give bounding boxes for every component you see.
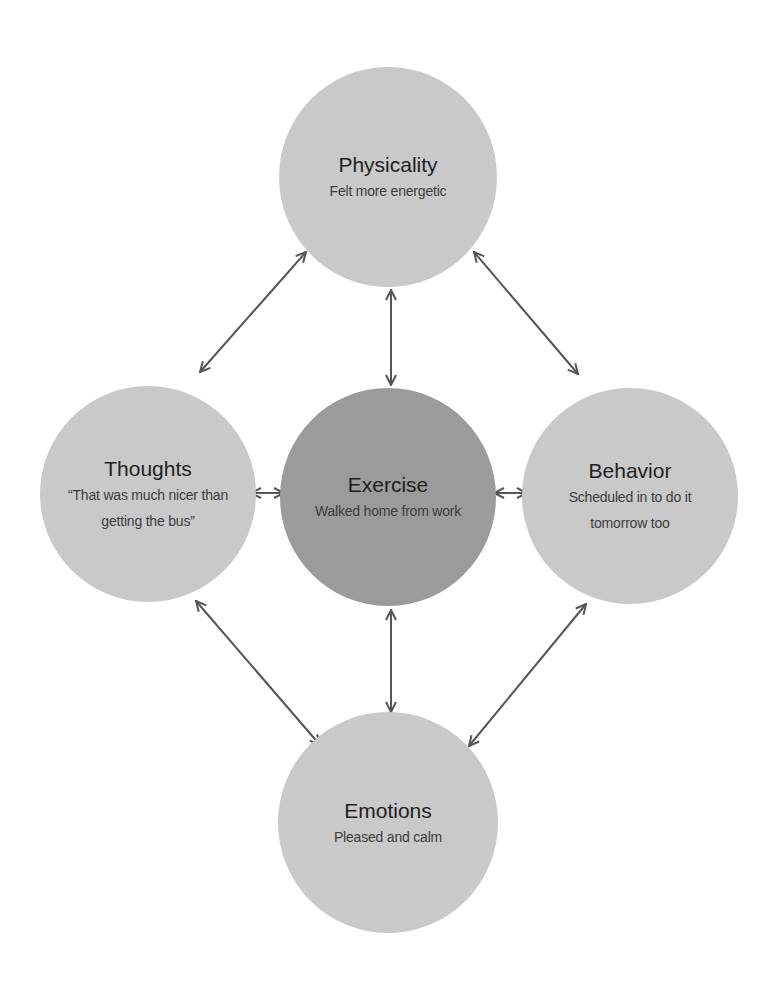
- node-title: Physicality: [338, 152, 437, 178]
- node-description-line-1: “That was much nicer than: [68, 482, 228, 508]
- node-physicality: Physicality Felt more energetic: [279, 67, 497, 287]
- node-title: Exercise: [348, 472, 429, 498]
- node-title: Thoughts: [104, 456, 192, 482]
- cycle-diagram: Physicality Felt more energetic Thoughts…: [0, 0, 758, 982]
- node-description: Pleased and calm: [334, 824, 442, 850]
- node-title: Emotions: [344, 798, 432, 824]
- arrow-behavior-emotions: [469, 604, 586, 746]
- arrow-physicality-thoughts: [200, 252, 306, 372]
- node-description-line-2: tomorrow too: [590, 510, 669, 536]
- node-description-line-2: getting the bus”: [101, 508, 194, 534]
- node-description: Walked home from work: [315, 498, 461, 524]
- node-title: Behavior: [589, 458, 672, 484]
- node-behavior: Behavior Scheduled in to do it tomorrow …: [522, 388, 738, 604]
- node-description-line-1: Scheduled in to do it: [569, 484, 692, 510]
- arrow-physicality-behavior: [474, 252, 578, 374]
- node-emotions: Emotions Pleased and calm: [278, 712, 498, 933]
- node-thoughts: Thoughts “That was much nicer than getti…: [40, 386, 256, 602]
- node-exercise: Exercise Walked home from work: [280, 388, 496, 606]
- arrow-thoughts-emotions: [196, 601, 320, 745]
- node-description: Felt more energetic: [330, 178, 447, 204]
